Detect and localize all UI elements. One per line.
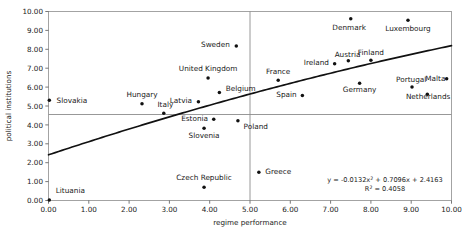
- data-point: [202, 127, 206, 131]
- x-tick-label: 3.00: [161, 205, 177, 214]
- data-point-label: Austria: [335, 50, 361, 59]
- data-point-label: Luxembourg: [385, 24, 430, 33]
- data-point-label: Belgium: [226, 84, 256, 93]
- x-tick-label: 1.00: [81, 205, 97, 214]
- y-tick-label: 9.00: [27, 26, 43, 35]
- data-point-label: Hungary: [126, 90, 158, 99]
- x-tick-label: 4.00: [202, 205, 218, 214]
- data-point: [410, 85, 414, 89]
- data-point-label: Sweden: [201, 40, 230, 49]
- y-tick-label: 10.00: [22, 7, 43, 16]
- y-tick-label: 8.00: [27, 45, 43, 54]
- y-tick-label: 5.00: [27, 102, 43, 111]
- data-point: [257, 170, 261, 174]
- trendline-equation: y = -0.0132x2 + 0.7096x + 2.4163: [327, 175, 442, 184]
- data-point-label: Czech Republic: [176, 173, 232, 182]
- data-point-label: Greece: [265, 167, 291, 176]
- x-tick-label: 8.00: [363, 205, 379, 214]
- data-point: [48, 198, 52, 202]
- x-tick-label: 7.00: [323, 205, 339, 214]
- y-tick-label: 4.00: [27, 121, 43, 130]
- y-tick-label: 0.00: [27, 196, 43, 205]
- data-point: [369, 59, 373, 63]
- data-point-label: Ireland: [304, 58, 329, 67]
- data-point: [406, 18, 410, 22]
- data-point-label: France: [266, 67, 291, 76]
- data-point-label: United Kingdom: [179, 64, 238, 73]
- x-tick-label: 10.00: [441, 205, 462, 214]
- data-point: [202, 186, 206, 190]
- x-tick-label: 2.00: [121, 205, 137, 214]
- data-point: [349, 17, 353, 21]
- y-tick-label: 2.00: [27, 158, 43, 167]
- data-point-label: Poland: [244, 122, 268, 131]
- data-point-label: Denmark: [332, 23, 366, 32]
- data-point: [218, 91, 222, 95]
- y-axis-title: political institutions: [4, 71, 13, 142]
- data-point-label: Portugal: [396, 75, 426, 84]
- data-point: [212, 117, 216, 121]
- data-point: [48, 99, 52, 103]
- x-tick-label: 0.00: [40, 205, 56, 214]
- data-point-label: Malta: [425, 74, 445, 83]
- x-tick-label: 6.00: [282, 205, 298, 214]
- data-point: [197, 100, 201, 104]
- data-point: [276, 79, 280, 83]
- data-point: [347, 59, 351, 63]
- data-point-label: Slovakia: [57, 96, 88, 105]
- data-point: [301, 94, 305, 98]
- data-point: [140, 102, 144, 106]
- data-point-label: Lituania: [56, 186, 85, 195]
- data-point: [162, 111, 166, 115]
- data-point-label: Estonia: [181, 114, 208, 123]
- chart-canvas: 0.001.002.003.004.005.006.007.008.009.00…: [0, 0, 465, 235]
- y-tick-label: 1.00: [27, 177, 43, 186]
- y-tick-label: 7.00: [27, 64, 43, 73]
- x-axis-title: regime performance: [213, 218, 287, 227]
- x-tick-label: 9.00: [403, 205, 419, 214]
- data-point-label: Spain: [276, 90, 296, 99]
- x-tick-label: 5.00: [242, 205, 258, 214]
- data-point-label: Slovenia: [189, 131, 220, 140]
- data-point: [333, 62, 337, 66]
- y-tick-label: 6.00: [27, 83, 43, 92]
- data-point-label: Finland: [358, 48, 384, 57]
- data-point: [236, 119, 240, 123]
- y-tick-label: 3.00: [27, 139, 43, 148]
- data-point: [235, 44, 239, 48]
- data-point: [206, 76, 210, 80]
- data-point-label: Netherlands: [406, 92, 451, 101]
- scatter-chart: 0.001.002.003.004.005.006.007.008.009.00…: [0, 0, 465, 235]
- data-point-label: Germany: [343, 85, 377, 94]
- data-point-label: Latvia: [170, 96, 192, 105]
